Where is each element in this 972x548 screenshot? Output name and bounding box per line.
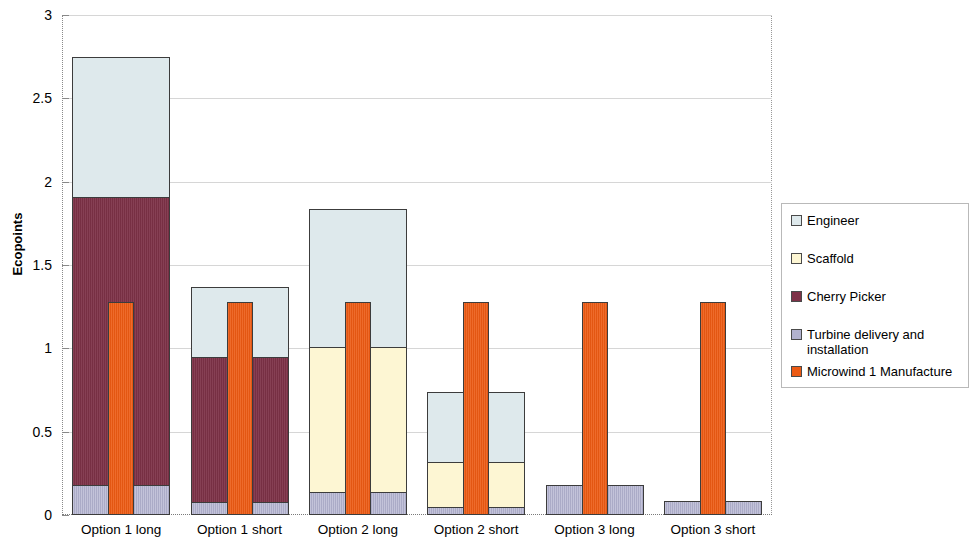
bar-group[interactable] <box>664 15 762 515</box>
x-axis-tick-label: Option 1 short <box>180 522 298 538</box>
overlay-bar-microwind[interactable] <box>700 302 726 515</box>
y-axis-tick-mark <box>62 265 69 266</box>
y-axis-tick-label: 1 <box>6 341 52 355</box>
y-axis-tick-label: 1.5 <box>6 258 52 272</box>
overlay-bar-microwind[interactable] <box>463 302 489 515</box>
legend-label: Microwind 1 Manufacture <box>807 364 952 379</box>
y-axis-tick-label: 2 <box>6 175 52 189</box>
plot-area <box>62 15 772 515</box>
bar-group[interactable] <box>546 15 644 515</box>
overlay-bar-microwind[interactable] <box>108 302 134 515</box>
legend-label: Scaffold <box>807 251 854 266</box>
y-axis-tick-label: 3 <box>6 8 52 22</box>
x-axis-tick-label: Option 2 short <box>417 522 535 538</box>
x-axis-tick-label: Option 3 long <box>535 522 653 538</box>
y-axis-tick-label: 0 <box>6 508 52 522</box>
x-axis-tick-label: Option 3 short <box>654 522 772 538</box>
legend-swatch-icon <box>791 329 802 340</box>
legend-label: Engineer <box>807 213 859 228</box>
legend-item[interactable]: Scaffold <box>791 251 969 266</box>
x-axis-tick-label: Option 1 long <box>62 522 180 538</box>
bar-group[interactable] <box>191 15 289 515</box>
ecopoints-stacked-bar-chart: Ecopoints 00.511.522.53 Option 1 longOpt… <box>0 0 972 548</box>
bar-group[interactable] <box>72 15 170 515</box>
legend-label: Turbine delivery and installation <box>807 327 969 357</box>
y-axis-tick-label: 0.5 <box>6 425 52 439</box>
legend-swatch-icon <box>791 253 802 264</box>
overlay-bar-microwind[interactable] <box>345 302 371 515</box>
overlay-bar-microwind[interactable] <box>227 302 253 515</box>
legend-label: Cherry Picker <box>807 289 886 304</box>
x-axis-tick-label: Option 2 long <box>299 522 417 538</box>
legend-item[interactable]: Microwind 1 Manufacture <box>791 364 969 379</box>
bar-group[interactable] <box>309 15 407 515</box>
y-axis-tick-label: 2.5 <box>6 91 52 105</box>
y-axis-tick-mark <box>62 98 69 99</box>
legend-item[interactable]: Cherry Picker <box>791 289 969 304</box>
y-axis-tick-mark <box>62 182 69 183</box>
chart-legend: EngineerScaffoldCherry PickerTurbine del… <box>781 203 969 388</box>
bar-group[interactable] <box>427 15 525 515</box>
y-axis-tick-mark <box>62 515 69 516</box>
legend-swatch-icon <box>791 366 802 377</box>
y-axis-tick-mark <box>62 348 69 349</box>
y-axis-tick-mark <box>62 432 69 433</box>
y-axis-tick-mark <box>62 15 69 16</box>
legend-swatch-icon <box>791 215 802 226</box>
legend-swatch-icon <box>791 291 802 302</box>
legend-item[interactable]: Engineer <box>791 213 969 228</box>
y-axis-title: Ecopoints <box>10 194 26 294</box>
bar-segment[interactable] <box>72 57 170 198</box>
overlay-bar-microwind[interactable] <box>582 302 608 515</box>
legend-item[interactable]: Turbine delivery and installation <box>791 327 969 357</box>
